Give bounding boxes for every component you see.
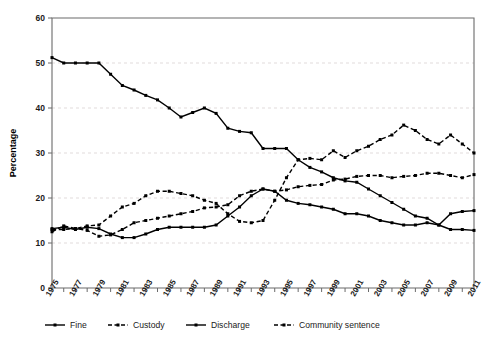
marker-community-sentence-1999 xyxy=(332,149,335,152)
marker-custody-2009 xyxy=(449,174,452,177)
marker-custody-2011 xyxy=(473,173,476,176)
marker-fine-1990 xyxy=(226,127,229,130)
marker-community-sentence-1975 xyxy=(51,230,54,233)
marker-discharge-1997 xyxy=(308,203,311,206)
marker-custody-1983 xyxy=(144,219,147,222)
marker-community-sentence-2011 xyxy=(473,152,476,155)
marker-community-sentence-2002 xyxy=(367,145,370,148)
marker-fine-2001 xyxy=(355,181,358,184)
marker-community-sentence-1981 xyxy=(121,206,124,209)
series-line-fine xyxy=(52,58,474,231)
marker-fine-2002 xyxy=(367,188,370,191)
marker-custody-2008 xyxy=(437,172,440,175)
marker-fine-2010 xyxy=(461,228,464,231)
marker-community-sentence-1978 xyxy=(86,224,89,227)
marker-fine-1985 xyxy=(168,107,171,110)
marker-discharge-1983 xyxy=(144,233,147,236)
marker-fine-2011 xyxy=(473,229,476,232)
marker-custody-1984 xyxy=(156,217,159,220)
marker-community-sentence-1991 xyxy=(238,220,241,223)
legend-label-fine: Fine xyxy=(70,320,87,330)
marker-community-sentence-1992 xyxy=(250,221,253,224)
marker-discharge-2004 xyxy=(390,221,393,224)
marker-discharge-1984 xyxy=(156,228,159,231)
marker-custody-2006 xyxy=(414,174,417,177)
marker-community-sentence-1985 xyxy=(168,190,171,193)
legend-label-custody: Custody xyxy=(133,320,165,330)
marker-discharge-2000 xyxy=(344,212,347,215)
marker-discharge-2011 xyxy=(473,209,476,212)
marker-community-sentence-1987 xyxy=(191,194,194,197)
marker-fine-1991 xyxy=(238,130,241,133)
xtick-label-2011: 2011 xyxy=(466,278,483,298)
marker-community-sentence-2000 xyxy=(344,156,347,159)
marker-discharge-1975 xyxy=(51,227,54,230)
marker-custody-1990 xyxy=(226,203,229,206)
marker-custody-1999 xyxy=(332,179,335,182)
marker-discharge-1992 xyxy=(250,194,253,197)
marker-community-sentence-1977 xyxy=(74,227,77,230)
marker-discharge-1994 xyxy=(273,190,276,193)
marker-fine-1980 xyxy=(109,73,112,76)
series-line-custody xyxy=(52,173,474,236)
ytick-label-10: 10 xyxy=(36,238,46,248)
legend-item-custody: Custody xyxy=(108,320,165,330)
marker-fine-2004 xyxy=(390,201,393,204)
marker-fine-1998 xyxy=(320,170,323,173)
marker-discharge-2009 xyxy=(449,212,452,215)
marker-custody-2010 xyxy=(461,176,464,179)
marker-custody-1998 xyxy=(320,183,323,186)
marker-discharge-1980 xyxy=(109,233,112,236)
marker-custody-1995 xyxy=(285,188,288,191)
legend-item-community-sentence: Community sentence xyxy=(274,320,380,330)
marker-fine-1997 xyxy=(308,166,311,169)
marker-community-sentence-1980 xyxy=(109,215,112,218)
legend-marker-custody xyxy=(117,324,120,327)
marker-community-sentence-1995 xyxy=(285,176,288,179)
marker-discharge-2008 xyxy=(437,224,440,227)
marker-custody-1988 xyxy=(203,206,206,209)
ytick-label-40: 40 xyxy=(36,103,46,113)
marker-custody-2004 xyxy=(390,176,393,179)
y-axis-title: Percentage xyxy=(8,129,18,178)
marker-discharge-1991 xyxy=(238,206,241,209)
marker-community-sentence-2010 xyxy=(461,143,464,146)
series-line-community-sentence xyxy=(52,125,474,232)
marker-community-sentence-2009 xyxy=(449,134,452,137)
marker-discharge-1989 xyxy=(215,224,218,227)
marker-discharge-1998 xyxy=(320,206,323,209)
marker-discharge-1996 xyxy=(297,202,300,205)
marker-discharge-2010 xyxy=(461,210,464,213)
marker-discharge-1993 xyxy=(262,188,265,191)
marker-discharge-1999 xyxy=(332,208,335,211)
marker-community-sentence-1996 xyxy=(297,158,300,161)
ytick-label-60: 60 xyxy=(36,13,46,23)
marker-fine-2007 xyxy=(426,217,429,220)
marker-community-sentence-1986 xyxy=(179,192,182,195)
marker-custody-1987 xyxy=(191,210,194,213)
marker-discharge-1986 xyxy=(179,226,182,229)
marker-community-sentence-1984 xyxy=(156,190,159,193)
marker-fine-1975 xyxy=(51,56,54,59)
marker-discharge-2003 xyxy=(379,219,382,222)
marker-discharge-1995 xyxy=(285,199,288,202)
marker-discharge-1982 xyxy=(133,236,136,239)
marker-discharge-1981 xyxy=(121,236,124,239)
marker-fine-1984 xyxy=(156,98,159,101)
marker-discharge-1985 xyxy=(168,226,171,229)
ytick-label-50: 50 xyxy=(36,58,46,68)
marker-fine-1981 xyxy=(121,84,124,87)
marker-fine-1993 xyxy=(262,147,265,150)
legend-label-community-sentence: Community sentence xyxy=(299,320,380,330)
marker-fine-2009 xyxy=(449,228,452,231)
marker-fine-2003 xyxy=(379,194,382,197)
legend-marker-discharge xyxy=(195,324,198,327)
marker-community-sentence-1982 xyxy=(133,202,136,205)
marker-custody-2001 xyxy=(355,175,358,178)
marker-fine-2005 xyxy=(402,208,405,211)
marker-custody-1991 xyxy=(238,194,241,197)
marker-fine-1982 xyxy=(133,89,136,92)
marker-community-sentence-2006 xyxy=(414,129,417,132)
marker-custody-2003 xyxy=(379,174,382,177)
legend-marker-fine xyxy=(54,324,57,327)
